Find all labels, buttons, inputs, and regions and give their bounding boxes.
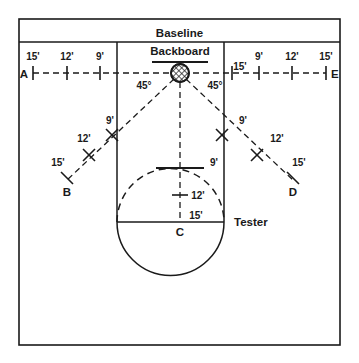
tester-label: Tester [234, 216, 268, 228]
center-distance-9: 9' [210, 157, 218, 168]
baseline-right-distance-9: 9' [255, 51, 263, 62]
point-label-d: D [289, 186, 297, 198]
diagonal-left-distance-12: 12' [77, 133, 91, 144]
point-label-c: C [176, 226, 184, 238]
baseline-right-distance-near-15: 15' [233, 61, 247, 72]
court-diagram-figure: Baseline A 15' 12' 9' 15' 9' 12' 15' E B… [0, 0, 359, 363]
baseline-right-distance-15: 15' [319, 51, 333, 62]
angle-label-left-45: 45° [136, 80, 151, 91]
diagonal-right-distance-12: 12' [270, 133, 284, 144]
point-label-b: B [63, 186, 71, 198]
center-distance-15: 15' [189, 210, 203, 221]
center-distance-12: 12' [191, 190, 205, 201]
diagonal-left-distance-9: 9' [106, 115, 114, 126]
backboard-label: Backboard [150, 45, 209, 57]
basketball-shooting-spots-diagram: Baseline A 15' 12' 9' 15' 9' 12' 15' E B… [0, 0, 359, 363]
diagonal-left-distance-15: 15' [51, 157, 65, 168]
diagonal-right-distance-15: 15' [292, 157, 306, 168]
baseline-right-distance-12: 12' [285, 51, 299, 62]
point-label-e: E [331, 68, 339, 80]
diagonal-right-distance-9: 9' [239, 115, 247, 126]
baseline-left-distance-15: 15' [26, 51, 40, 62]
angle-label-right-45: 45° [207, 80, 222, 91]
baseline-label: Baseline [156, 27, 203, 39]
baseline-left-distance-9: 9' [96, 51, 104, 62]
baseline-left-distance-12: 12' [60, 51, 74, 62]
point-label-a: A [20, 68, 28, 80]
